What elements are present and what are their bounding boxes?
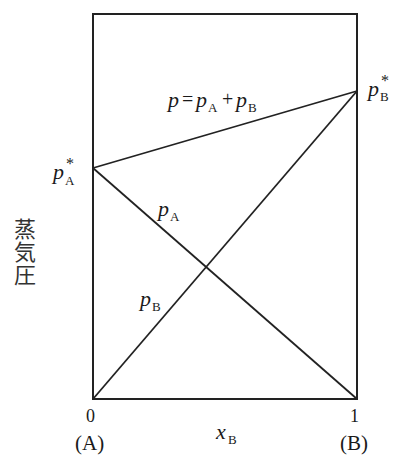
svg-text:p: p <box>366 76 379 101</box>
pa-line <box>93 168 357 399</box>
svg-text:A: A <box>65 173 75 188</box>
svg-text:+: + <box>222 88 233 110</box>
svg-text:p: p <box>166 87 179 112</box>
pb-star-label: p * B <box>366 72 389 104</box>
x-tick-0: 0 <box>86 406 95 426</box>
pb-line <box>93 91 357 399</box>
svg-text:B: B <box>152 299 161 314</box>
svg-text:A: A <box>170 209 180 224</box>
pa-star-label: p * A <box>51 155 75 188</box>
svg-text:*: * <box>66 155 74 172</box>
svg-text:p: p <box>138 286 151 311</box>
svg-text:p: p <box>234 87 247 112</box>
svg-text:B: B <box>248 100 257 115</box>
svg-text:p: p <box>51 159 64 184</box>
x-axis-label: x B <box>215 419 237 447</box>
endpoint-b-label: (B) <box>340 431 368 455</box>
x-tick-1: 1 <box>350 406 359 426</box>
svg-text:*: * <box>381 72 389 89</box>
vapor-pressure-chart: p = p A + p B p * B p * A p A p B 0 1 x … <box>0 0 407 476</box>
endpoint-a-label: (A) <box>75 431 104 455</box>
total-equation-label: p = p A + p B <box>166 87 257 115</box>
svg-text:p: p <box>194 87 207 112</box>
svg-text:B: B <box>380 89 389 104</box>
svg-text:B: B <box>228 432 237 447</box>
plot-frame <box>93 14 357 399</box>
svg-text:p: p <box>156 196 169 221</box>
svg-text:A: A <box>208 100 218 115</box>
svg-text:x: x <box>215 419 226 444</box>
pb-label: p B <box>138 286 161 314</box>
svg-text:=: = <box>182 88 193 110</box>
pa-label: p A <box>156 196 180 224</box>
